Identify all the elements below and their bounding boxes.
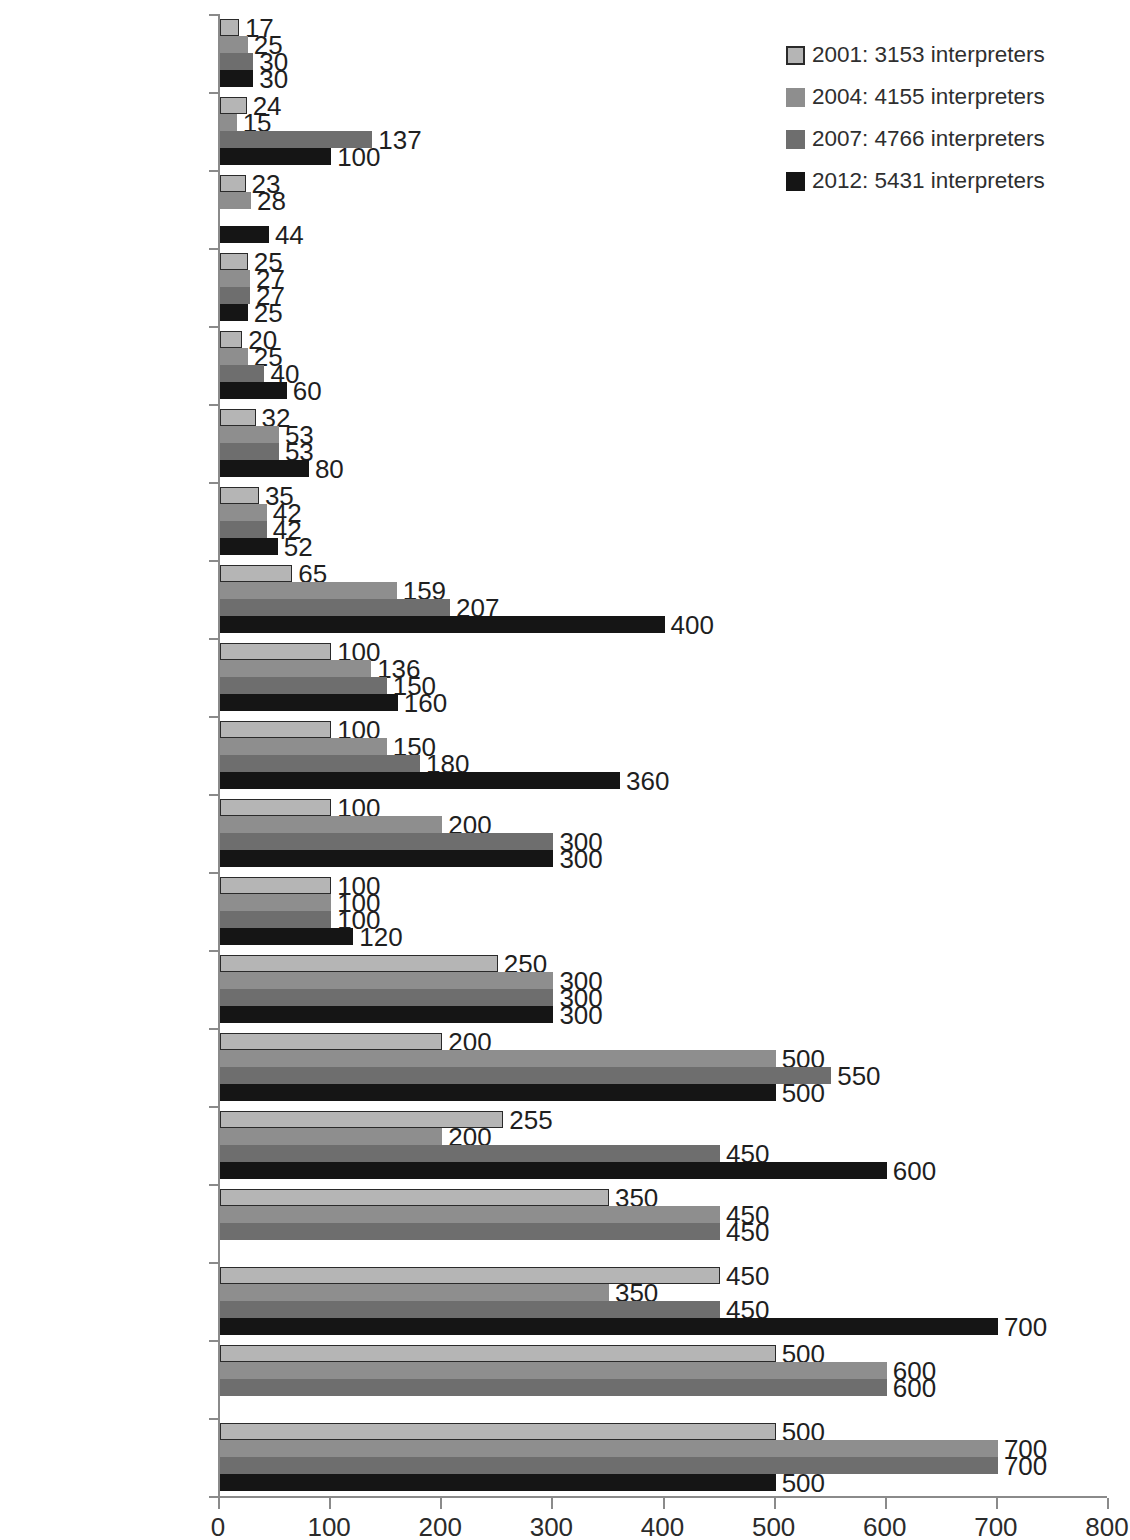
bar[interactable] [220,1223,720,1240]
bar[interactable] [220,270,250,287]
bar[interactable] [220,192,251,209]
x-axis-tick [440,1498,442,1509]
bar[interactable] [220,1084,776,1101]
bar[interactable] [220,365,264,382]
x-axis-tick [885,1498,887,1509]
bar[interactable] [220,175,246,192]
bar[interactable] [220,1206,720,1223]
bar[interactable] [220,565,292,582]
x-axis-tick-label: 800 [1085,1512,1128,1540]
bar-chart: 2001: 3153 interpreters2004: 4155 interp… [0,0,1130,1540]
bar[interactable] [220,253,248,270]
bar[interactable] [220,1067,831,1084]
y-axis-tick [209,950,219,952]
bar[interactable] [220,409,256,426]
y-axis-tick [209,872,219,874]
bar[interactable] [220,487,259,504]
bar[interactable] [220,538,278,555]
y-axis-tick [209,1262,219,1264]
x-axis-tick [329,1498,331,1509]
bar[interactable] [220,1189,609,1206]
bar-value-label: 700 [1004,1450,1047,1481]
bar[interactable] [220,1423,776,1440]
bar[interactable] [220,287,250,304]
x-axis-tick-label: 400 [641,1512,684,1540]
bar[interactable] [220,1379,887,1396]
bar[interactable] [220,382,287,399]
bar[interactable] [220,443,279,460]
x-axis-tick-label: 100 [307,1512,350,1540]
bar-value-label: 300 [559,843,602,874]
x-axis-tick [996,1498,998,1509]
bar[interactable] [220,226,269,243]
bar[interactable] [220,833,553,850]
bar[interactable] [220,1284,609,1301]
bar[interactable] [220,850,553,867]
bar[interactable] [220,460,309,477]
bar[interactable] [220,148,331,165]
bar[interactable] [220,331,242,348]
bar[interactable] [220,1440,998,1457]
bar[interactable] [220,348,248,365]
bar[interactable] [220,1145,720,1162]
bar-value-label: 160 [404,687,447,718]
y-axis-tick [209,1184,219,1186]
y-axis-tick [209,1418,219,1420]
bar[interactable] [220,643,331,660]
y-axis-tick [209,482,219,484]
bar[interactable] [220,755,420,772]
bar[interactable] [220,877,331,894]
bar-value-label: 60 [293,375,322,406]
bar[interactable] [220,738,387,755]
bar-value-label: 137 [378,124,421,155]
bar-value-label: 450 [726,1216,769,1247]
bar[interactable] [220,894,331,911]
bar[interactable] [220,1006,553,1023]
bar[interactable] [220,36,248,53]
bar[interactable] [220,582,397,599]
bar[interactable] [220,660,371,677]
bar-value-label: 100 [337,141,380,172]
bar[interactable] [220,1301,720,1318]
bar[interactable] [220,928,353,945]
bar[interactable] [220,521,267,538]
bar-value-label: 450 [726,1260,769,1291]
bar[interactable] [220,972,553,989]
bar[interactable] [220,114,237,131]
bar[interactable] [220,1457,998,1474]
bar[interactable] [220,989,553,1006]
bar[interactable] [220,1362,887,1379]
y-axis-tick [209,326,219,328]
y-axis-tick [209,560,219,562]
bar[interactable] [220,1128,442,1145]
bar[interactable] [220,1033,442,1050]
bar[interactable] [220,772,620,789]
bar[interactable] [220,1318,998,1335]
bar-value-label: 600 [893,1372,936,1403]
bar[interactable] [220,955,498,972]
bar[interactable] [220,1050,776,1067]
bar[interactable] [220,304,248,321]
bar[interactable] [220,426,279,443]
x-axis-tick [663,1498,665,1509]
x-axis-tick [1107,1498,1109,1509]
bar[interactable] [220,816,442,833]
bar[interactable] [220,19,239,36]
plot-area: 0100200300400500600700800Switz.-Fr172530… [218,14,1107,1496]
y-axis-tick [209,638,219,640]
bar[interactable] [220,1345,776,1362]
bar[interactable] [220,677,387,694]
bar[interactable] [220,1162,887,1179]
x-axis-tick-label: 500 [752,1512,795,1540]
bar[interactable] [220,721,331,738]
bar[interactable] [220,911,331,928]
bar[interactable] [220,616,665,633]
bar[interactable] [220,599,450,616]
bar[interactable] [220,1474,776,1491]
bar[interactable] [220,799,331,816]
bar[interactable] [220,53,253,70]
bar[interactable] [220,70,253,87]
bar[interactable] [220,694,398,711]
y-axis-tick [209,794,219,796]
bar[interactable] [220,504,267,521]
